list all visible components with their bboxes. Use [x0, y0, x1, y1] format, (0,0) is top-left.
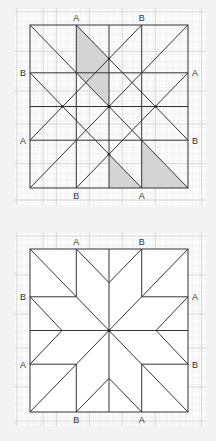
label-right-a: A — [192, 68, 198, 78]
label-right-a: A — [192, 292, 198, 302]
label-top-b: B — [139, 13, 145, 23]
label-right-b: B — [192, 136, 198, 146]
label-bottom-b: B — [73, 415, 79, 425]
label-left-b: B — [20, 292, 26, 302]
label-left-a: A — [20, 136, 26, 146]
label-bottom-b: B — [73, 191, 79, 201]
label-left-a: A — [20, 360, 26, 370]
construction-figure: A B B A A B B A — [14, 8, 206, 205]
diagram-canvas: A B B A A B B A — [0, 0, 216, 441]
label-right-b: B — [192, 360, 198, 370]
star-figure: A B B A A B B A — [14, 232, 206, 426]
label-left-b: B — [20, 68, 26, 78]
center-dot — [108, 329, 111, 332]
label-top-a: A — [73, 13, 79, 23]
label-bottom-a: A — [139, 191, 145, 201]
label-top-b: B — [139, 237, 145, 247]
label-bottom-a: A — [139, 415, 145, 425]
label-top-a: A — [73, 237, 79, 247]
